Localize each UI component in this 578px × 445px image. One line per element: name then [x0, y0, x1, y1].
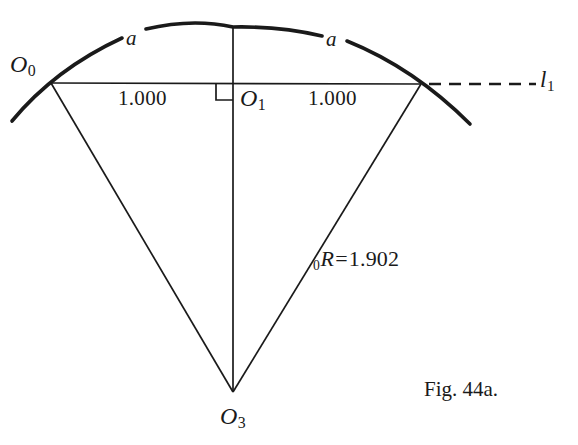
radius-line-left — [51, 83, 233, 392]
radius-label-symbol: R — [321, 246, 335, 271]
radius-label-value: 1.902 — [349, 246, 400, 271]
radius-label: 0R=1.902 — [313, 248, 399, 272]
arc-label-left: a — [126, 28, 137, 49]
point-label-O1: O1 — [240, 86, 266, 113]
point-label-O3-letter: O — [220, 403, 237, 429]
figure-caption: Fig. 44a. — [424, 379, 498, 400]
arc-segment-middle — [146, 23, 322, 36]
radius-label-presubscript: 0 — [313, 258, 321, 273]
point-label-O3: O3 — [220, 404, 246, 431]
point-label-O3-subscript: 3 — [237, 414, 245, 431]
point-label-O0: O0 — [10, 52, 36, 79]
arc-segment-right — [347, 41, 470, 124]
point-label-O0-subscript: 0 — [27, 62, 35, 79]
figure-44a: O0 O1 O3 a a 1.000 1.000 0R=1.902 l1 Fig… — [0, 0, 578, 445]
right-angle-icon — [216, 83, 233, 100]
radius-line-right — [233, 84, 421, 392]
point-label-O1-letter: O — [240, 85, 257, 111]
arc-label-right: a — [326, 29, 337, 50]
chord-baseline — [51, 83, 421, 84]
radius-label-equals: = — [334, 246, 349, 271]
point-label-O0-letter: O — [10, 51, 27, 77]
dimension-label-right: 1.000 — [308, 88, 357, 109]
axis-line-label-l1: l1 — [540, 68, 554, 93]
point-label-O1-subscript: 1 — [257, 96, 265, 113]
dimension-label-left: 1.000 — [118, 88, 167, 109]
axis-line-label-subscript: 1 — [546, 77, 554, 94]
